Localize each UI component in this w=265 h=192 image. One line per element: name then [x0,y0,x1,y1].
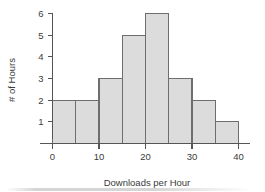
y-tick-label: 3 [38,73,43,84]
bars-group [53,14,239,144]
x-tick-label: 10 [94,151,105,162]
histogram-figure: 123456 010203040 Downloads per Hour # of… [0,0,265,192]
scan-artifact [6,188,252,191]
x-axis-title: Downloads per Hour [104,177,191,188]
x-tick-label: 30 [187,151,198,162]
histogram-bar [53,100,76,143]
x-axis-ticks: 010203040 [50,144,244,162]
y-tick-label: 2 [38,95,43,106]
histogram-bar [215,122,238,144]
histogram-bar [169,79,192,144]
y-tick-label: 1 [38,116,43,127]
x-tick-label: 40 [233,151,244,162]
histogram-bar [122,35,145,143]
histogram-bar [146,14,169,144]
y-axis-title: # of Hours [6,58,17,102]
y-axis-ticks: 123456 [38,8,52,127]
histogram-bar [76,100,99,143]
histogram-bar [192,100,215,143]
x-tick-label: 0 [50,151,55,162]
y-tick-label: 4 [38,51,43,62]
histogram-bar [99,79,122,144]
y-tick-label: 6 [38,8,43,19]
x-tick-label: 20 [140,151,151,162]
downloads-per-hour-histogram: 123456 010203040 Downloads per Hour # of… [0,0,265,192]
y-tick-label: 5 [38,30,43,41]
